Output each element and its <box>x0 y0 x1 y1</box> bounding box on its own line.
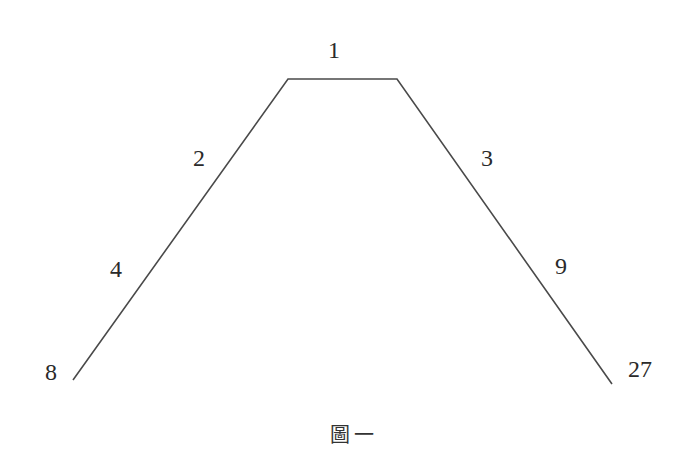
label-left-end: 8 <box>45 360 57 384</box>
label-left-middle: 4 <box>110 257 122 281</box>
label-right-end: 27 <box>628 357 652 381</box>
label-left-upper: 2 <box>193 146 205 170</box>
figure-caption: 圖一 <box>330 425 378 445</box>
label-right-middle: 9 <box>555 254 567 278</box>
trapezoid-path-graphic <box>0 0 696 475</box>
label-right-upper: 3 <box>481 146 493 170</box>
label-top: 1 <box>328 38 340 62</box>
trapezoid-outline <box>73 79 612 384</box>
trapezoid-figure: 1 2 3 4 9 8 27 圖一 <box>0 0 696 475</box>
